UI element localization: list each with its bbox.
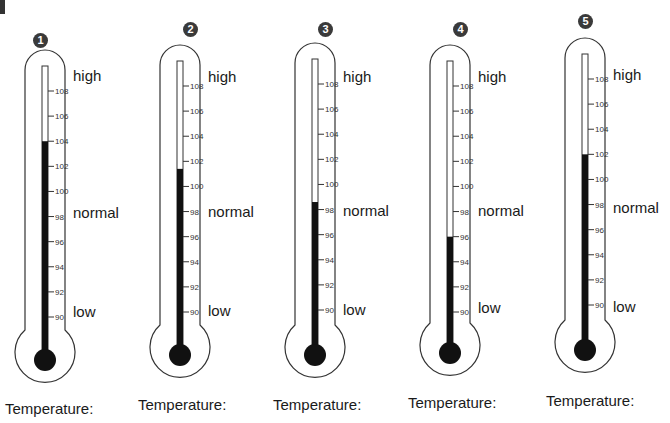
temperature-label: Temperature:	[5, 400, 93, 417]
mercury-column	[447, 237, 453, 353]
tick-label: 94	[190, 258, 199, 267]
zone-label-high: high	[73, 67, 101, 84]
tick-label: 100	[595, 175, 609, 184]
tick-label: 98	[595, 201, 604, 210]
tick-label: 108	[595, 75, 609, 84]
zone-label-low: low	[343, 301, 366, 318]
mercury-bulb	[169, 344, 191, 366]
tick-label: 104	[460, 132, 474, 141]
tick-label: 98	[190, 208, 199, 217]
thermometer-2: 21081061041021009896949290highnormallowT…	[135, 0, 270, 423]
tick-label: 92	[325, 281, 334, 290]
temperature-label: Temperature:	[273, 396, 361, 413]
tick-label: 100	[190, 182, 204, 191]
tick-label: 90	[55, 313, 64, 322]
temperature-label: Temperature:	[138, 396, 226, 413]
tick-label: 96	[460, 233, 469, 242]
tick-label: 92	[595, 276, 604, 285]
thermometer-3: 31081061041021009896949290highnormallowT…	[270, 0, 405, 423]
tick-label: 98	[55, 213, 64, 222]
tick-label: 108	[325, 80, 339, 89]
zone-label-high: high	[208, 68, 236, 85]
tick-label: 106	[190, 107, 204, 116]
tick-label: 92	[190, 283, 199, 292]
tick-label: 100	[325, 180, 339, 189]
zone-label-low: low	[73, 303, 96, 320]
tick-label: 92	[460, 283, 469, 292]
temperature-label: Temperature:	[546, 392, 634, 409]
mercury-bulb	[304, 344, 326, 366]
tick-label: 100	[460, 182, 474, 191]
temperature-label: Temperature:	[408, 394, 496, 411]
tick-label: 96	[325, 231, 334, 240]
tick-label: 102	[190, 157, 204, 166]
zone-label-normal: normal	[343, 202, 389, 219]
tick-label: 106	[595, 100, 609, 109]
tick-label: 102	[595, 150, 609, 159]
zone-label-low: low	[613, 298, 636, 315]
thermometer-5: 51081061041021009896949290highnormallowT…	[540, 0, 670, 423]
zone-label-high: high	[478, 68, 506, 85]
zone-label-low: low	[478, 299, 501, 316]
tick-label: 98	[460, 208, 469, 217]
tick-label: 90	[190, 308, 199, 317]
mercury-column	[312, 202, 318, 355]
mercury-column	[177, 169, 183, 355]
tick-label: 90	[325, 306, 334, 315]
tick-label: 106	[460, 107, 474, 116]
tick-label: 104	[55, 137, 69, 146]
tick-label: 92	[55, 288, 64, 297]
tick-label: 102	[55, 162, 69, 171]
thermometer-4: 41081061041021009896949290highnormallowT…	[405, 0, 540, 423]
tick-label: 108	[55, 87, 69, 96]
tick-label: 94	[460, 258, 469, 267]
tick-label: 96	[595, 226, 604, 235]
tick-label: 108	[190, 82, 204, 91]
mercury-bulb	[34, 349, 56, 371]
tick-label: 90	[595, 301, 604, 310]
zone-label-normal: normal	[478, 202, 524, 219]
zone-label-normal: normal	[613, 199, 659, 216]
tick-label: 104	[595, 125, 609, 134]
mercury-column	[42, 141, 48, 360]
tick-label: 98	[325, 206, 334, 215]
tick-label: 104	[190, 132, 204, 141]
zone-label-low: low	[208, 302, 231, 319]
tick-label: 94	[325, 256, 334, 265]
tick-label: 106	[325, 105, 339, 114]
tick-label: 102	[325, 155, 339, 164]
tick-label: 96	[55, 238, 64, 247]
tick-label: 104	[325, 130, 339, 139]
tick-label: 102	[460, 157, 474, 166]
zone-label-high: high	[343, 68, 371, 85]
mercury-bulb	[439, 342, 461, 364]
tick-label: 106	[55, 112, 69, 121]
tick-label: 108	[460, 82, 474, 91]
tick-label: 96	[190, 233, 199, 242]
tick-label: 94	[55, 263, 64, 272]
mercury-bulb	[574, 339, 596, 361]
mercury-column	[582, 154, 588, 350]
thermometer-1: 11081061041021009896949290highnormallowT…	[0, 0, 135, 423]
zone-label-high: high	[613, 66, 641, 83]
zone-label-normal: normal	[73, 204, 119, 221]
zone-label-normal: normal	[208, 203, 254, 220]
tick-label: 100	[55, 187, 69, 196]
tick-label: 90	[460, 308, 469, 317]
tick-label: 94	[595, 251, 604, 260]
